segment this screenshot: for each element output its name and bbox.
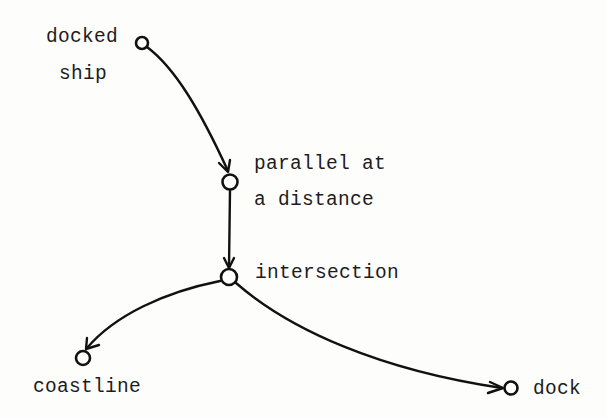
edge-intersection-to-dock: [236, 283, 502, 388]
node-coastline: [76, 351, 90, 365]
label-parallel-at: parallel at: [254, 153, 386, 175]
label-docked: docked: [46, 26, 118, 48]
node-docked-ship: [136, 37, 148, 49]
node-intersection: [221, 269, 237, 285]
labels: docked ship parallel at a distance inter…: [33, 26, 581, 400]
label-ship: ship: [59, 63, 107, 85]
state-transition-diagram: docked ship parallel at a distance inter…: [0, 0, 606, 419]
node-dock: [505, 382, 518, 395]
label-a-distance: a distance: [254, 189, 374, 211]
edge-docked-ship-to-parallel: [147, 47, 228, 171]
node-parallel-at-a-distance: [223, 175, 238, 190]
edge-intersection-to-coastline: [87, 281, 220, 348]
label-intersection: intersection: [255, 262, 399, 284]
label-dock: dock: [533, 378, 581, 400]
label-coastline: coastline: [33, 376, 141, 398]
edge-parallel-to-intersection: [229, 190, 230, 268]
edges: [86, 47, 503, 393]
nodes: [76, 37, 518, 395]
